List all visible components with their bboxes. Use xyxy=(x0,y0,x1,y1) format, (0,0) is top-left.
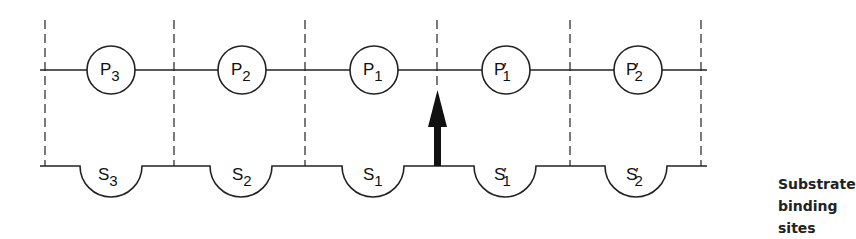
label-s3: S3 xyxy=(98,165,118,189)
caption-line-2: binding sites xyxy=(778,195,856,239)
label-s1: S1 xyxy=(363,165,383,189)
label-s2-prime: S′2 xyxy=(626,165,643,189)
label-s1-prime: S′1 xyxy=(494,165,511,189)
up-arrow-icon xyxy=(428,90,447,166)
label-s2: S2 xyxy=(232,165,252,189)
substrate-binding-sites-caption: Substrate binding sites xyxy=(778,173,856,239)
caption-line-1: Substrate xyxy=(778,173,856,195)
